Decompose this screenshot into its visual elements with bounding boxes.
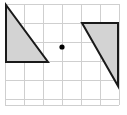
geometry-figure	[0, 0, 127, 115]
center-dot	[59, 44, 64, 49]
center-point-layer	[59, 44, 64, 49]
figure-canvas	[0, 0, 127, 115]
